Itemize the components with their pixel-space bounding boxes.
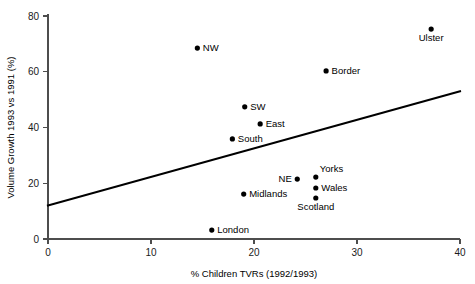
x-axis-title: % Children TVRs (1992/1993) — [191, 268, 318, 279]
data-label-scotland: Scotland — [297, 201, 334, 212]
data-point-midlands — [241, 192, 246, 197]
data-point-wales — [313, 185, 318, 190]
plot-area: 020406080010203040NWUlsterBorderSWEastSo… — [0, 0, 475, 284]
data-point-yorks — [313, 175, 318, 180]
data-label-south: South — [238, 133, 263, 144]
data-point-south — [230, 136, 235, 141]
data-point-sw — [242, 104, 247, 109]
data-label-ulster: Ulster — [419, 32, 444, 43]
data-label-nw: NW — [203, 42, 219, 53]
data-label-ne: NE — [279, 173, 292, 184]
data-label-border: Border — [332, 65, 361, 76]
data-point-ulster — [429, 27, 434, 32]
data-label-east: East — [266, 118, 285, 129]
data-point-border — [324, 68, 329, 73]
data-point-london — [209, 227, 214, 232]
y-tick-label-0: 0 — [33, 234, 39, 245]
y-tick-label-80: 80 — [28, 11, 40, 22]
x-tick-label-20: 20 — [248, 247, 260, 258]
data-point-nw — [195, 45, 200, 50]
scatter-chart: 020406080010203040NWUlsterBorderSWEastSo… — [0, 0, 475, 284]
x-tick-label-0: 0 — [45, 247, 51, 258]
x-tick-label-30: 30 — [351, 247, 363, 258]
y-tick-label-20: 20 — [28, 178, 40, 189]
y-axis-title: Volume Growth 1993 vs 1991 (%) — [5, 56, 16, 198]
x-tick-label-10: 10 — [145, 247, 157, 258]
x-tick-label-40: 40 — [454, 247, 466, 258]
data-label-sw: SW — [250, 101, 265, 112]
data-point-east — [258, 121, 263, 126]
data-label-yorks: Yorks — [320, 163, 344, 174]
data-label-london: London — [217, 224, 249, 235]
data-label-wales: Wales — [321, 182, 347, 193]
y-tick-label-40: 40 — [28, 122, 40, 133]
data-point-scotland — [313, 195, 318, 200]
data-label-midlands: Midlands — [249, 188, 287, 199]
y-tick-label-60: 60 — [28, 66, 40, 77]
data-point-ne — [295, 176, 300, 181]
